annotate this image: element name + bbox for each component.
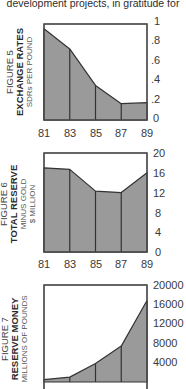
figure-7-ytick: 4000 bbox=[153, 357, 177, 368]
figure-7-ytick: 8000 bbox=[153, 338, 177, 349]
figure-7-ytick: 16000 bbox=[153, 299, 184, 310]
figure-7-ytick: 12000 bbox=[153, 318, 184, 329]
figure-7-ytick: 20000 bbox=[153, 280, 184, 291]
